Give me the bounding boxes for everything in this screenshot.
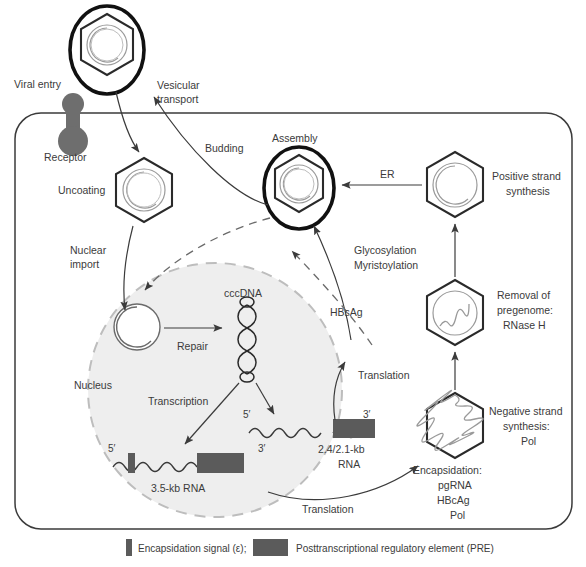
label-translation-upper: Translation <box>358 369 410 381</box>
label-3prime-3-5kb: 3′ <box>258 443 266 454</box>
pre-element-3-5kb <box>197 453 244 473</box>
receptor-shape <box>58 93 88 156</box>
label-translation-lower: Translation <box>302 503 354 515</box>
label-uncoating: Uncoating <box>58 184 105 196</box>
capsid-removal-pregenome <box>427 280 483 345</box>
hbv-life-cycle-diagram: Viral entry Receptor Vesicular transport… <box>0 0 586 567</box>
label-cccdna: cccDNA <box>224 287 262 299</box>
label-removal-1: Removal of <box>497 289 550 301</box>
label-glycosylation: Glycosylation <box>354 244 417 256</box>
label-viral-entry: Viral entry <box>14 78 62 90</box>
label-removal-2: pregenome: <box>497 304 553 316</box>
label-removal-3: RNase H <box>503 319 546 331</box>
virion-extracellular <box>70 6 144 94</box>
label-negative-strand-3: Pol <box>521 435 536 447</box>
label-myristoylation: Myristoylation <box>354 259 418 271</box>
label-encapsidation-3: HBcAg <box>437 494 470 506</box>
diagram-canvas: Viral entry Receptor Vesicular transport… <box>0 0 586 567</box>
label-encapsidation-2: pgRNA <box>438 479 472 491</box>
legend-swatch-encapsidation-signal <box>126 539 132 556</box>
label-nucleus: Nucleus <box>74 379 112 391</box>
label-rna-2-4kb-1: 2.4/2.1-kb <box>318 443 365 455</box>
label-repair: Repair <box>177 340 208 352</box>
label-negative-strand-1: Negative strand <box>489 405 563 417</box>
capsid-positive-strand <box>427 152 483 217</box>
label-nuclear-import-1: Nuclear <box>70 244 107 256</box>
capsid-negative-strand <box>417 390 483 458</box>
label-assembly: Assembly <box>272 132 318 144</box>
label-5prime-2-4kb: 5′ <box>243 409 251 420</box>
label-vesicular-transport-2: transport <box>157 93 199 105</box>
arrow-viral-entry <box>116 92 139 152</box>
label-positive-strand-1: Positive strand <box>492 170 561 182</box>
label-3prime-2-4kb: 3′ <box>363 409 371 420</box>
virion-assembly <box>264 147 334 229</box>
label-er: ER <box>380 168 395 180</box>
pre-element-2-4kb <box>333 419 375 438</box>
label-rna-2-4kb-2: RNA <box>338 458 360 470</box>
legend-swatch-pre <box>253 539 288 556</box>
label-budding: Budding <box>205 142 244 154</box>
legend-label-encapsidation-signal: Encapsidation signal (ε); <box>138 543 246 554</box>
label-receptor: Receptor <box>44 151 87 163</box>
label-transcription: Transcription <box>148 395 208 407</box>
label-hbsag: HBsAg <box>330 306 363 318</box>
label-positive-strand-2: synthesis <box>506 185 550 197</box>
label-encapsidation-1: Encapsidation: <box>413 464 482 476</box>
label-nuclear-import-2: import <box>70 258 99 270</box>
nucleus-boundary <box>88 263 342 517</box>
label-vesicular-transport-1: Vesicular <box>157 79 200 91</box>
label-rna-3-5kb: 3.5-kb RNA <box>151 482 205 494</box>
label-encapsidation-4: Pol <box>450 509 465 521</box>
label-negative-strand-2: synthesis: <box>503 420 550 432</box>
encapsidation-signal-3-5kb <box>128 453 135 473</box>
rcdna-shape <box>114 304 160 350</box>
capsid-uncoating <box>116 158 172 222</box>
legend-label-pre: Posttranscriptional regulatory element (… <box>296 543 494 554</box>
label-5prime-3-5kb: 5′ <box>108 443 116 454</box>
